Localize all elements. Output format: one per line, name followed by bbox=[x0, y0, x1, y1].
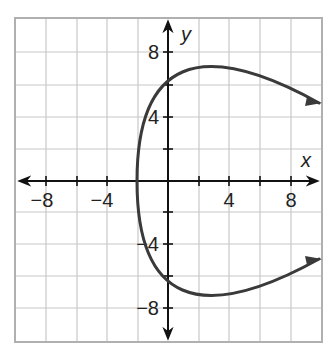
x-tick-label-neg4: −4 bbox=[91, 189, 114, 211]
x-tick-label-neg8: −8 bbox=[31, 189, 54, 211]
y-tick-label-neg8: −8 bbox=[136, 297, 159, 319]
y-tick-label-8: 8 bbox=[148, 41, 159, 63]
x-tick-label-8: 8 bbox=[285, 189, 296, 211]
x-tick-label-4: 4 bbox=[223, 189, 234, 211]
y-axis-label: y bbox=[179, 23, 192, 45]
coordinate-plane: −8 −4 4 8 8 4 −4 −8 x y bbox=[0, 0, 329, 360]
x-axis-label: x bbox=[300, 149, 312, 171]
